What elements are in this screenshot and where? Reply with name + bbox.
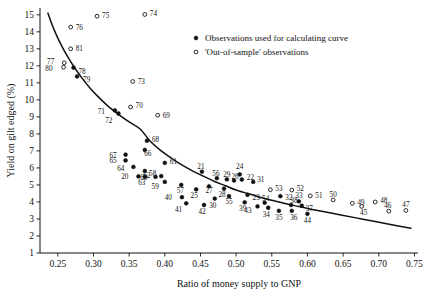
data-point-filled[interactable]: [117, 112, 121, 116]
data-point-label: 72: [105, 117, 113, 125]
data-point-label: 23: [253, 194, 261, 202]
data-point-label: 79: [83, 76, 91, 84]
data-point-label: 20: [121, 173, 129, 181]
data-point-label: 55: [225, 198, 233, 206]
data-point-filled[interactable]: [277, 209, 281, 213]
y-tick-label: 15: [25, 10, 35, 20]
data-point-label: 34: [263, 211, 271, 219]
data-point-label: 61: [170, 158, 178, 166]
x-tick-label: 0.65: [335, 259, 352, 269]
data-point-label: 63: [138, 179, 146, 187]
data-point-filled[interactable]: [290, 209, 294, 213]
data-point-label: 24: [236, 163, 244, 171]
y-tick-label: 11: [25, 78, 34, 88]
data-point-label: 64: [117, 165, 125, 173]
data-point-filled[interactable]: [266, 206, 270, 210]
data-point-label: 42: [198, 208, 206, 216]
data-point-filled[interactable]: [75, 75, 79, 79]
data-point-open[interactable]: [156, 113, 160, 117]
data-point-label: 31: [257, 176, 265, 184]
data-point-label: 51: [315, 192, 323, 200]
data-point-filled[interactable]: [132, 165, 136, 169]
data-point-filled[interactable]: [159, 174, 163, 178]
data-point-label: 41: [175, 206, 183, 214]
data-point-filled[interactable]: [243, 200, 247, 204]
data-point-label: 69: [163, 112, 171, 120]
data-point-open[interactable]: [129, 105, 133, 109]
data-point-filled[interactable]: [300, 204, 304, 208]
data-point-label: 66: [144, 150, 152, 158]
data-point-filled[interactable]: [124, 159, 128, 163]
data-point-filled[interactable]: [246, 193, 250, 197]
legend-label: 'Out-of-sample' observations: [205, 47, 309, 57]
y-tick-label: 13: [25, 44, 35, 54]
data-point-label: 54: [262, 195, 270, 203]
data-point-filled[interactable]: [278, 194, 282, 198]
y-tick-label: 3: [29, 214, 34, 224]
data-point-filled[interactable]: [256, 204, 260, 208]
data-point-label: 37: [306, 205, 314, 213]
chart-container: 1234567891011121314150.250.300.350.400.4…: [0, 0, 428, 306]
data-point-label: 47: [402, 201, 410, 209]
data-point-label: 74: [150, 10, 158, 18]
data-point-label: 57: [177, 187, 185, 195]
data-point-open[interactable]: [62, 61, 66, 65]
data-point-open[interactable]: [308, 194, 312, 198]
data-point-filled[interactable]: [184, 201, 188, 205]
y-tick-label: 9: [29, 112, 34, 122]
x-tick-label: 0.70: [370, 259, 387, 269]
data-point-label: 21: [197, 163, 205, 171]
data-point-filled[interactable]: [306, 212, 310, 216]
data-point-filled[interactable]: [163, 180, 167, 184]
data-point-open[interactable]: [143, 13, 147, 17]
data-point-label: 75: [102, 12, 110, 20]
x-axis-title: Ratio of money supply to GNP: [177, 278, 302, 289]
data-point-label: 48: [380, 197, 388, 205]
data-point-label: 81: [76, 45, 84, 53]
data-point-label: 27: [205, 187, 213, 195]
data-point-open[interactable]: [290, 188, 294, 192]
data-point-filled[interactable]: [251, 180, 255, 184]
y-tick-label: 7: [29, 146, 34, 156]
data-point-open[interactable]: [95, 14, 99, 18]
data-point-filled[interactable]: [240, 178, 244, 182]
y-tick-label: 5: [29, 180, 34, 190]
x-tick-label: 0.30: [85, 259, 102, 269]
data-point-label: 59: [152, 183, 160, 191]
data-point-filled[interactable]: [124, 153, 128, 157]
data-point-label: 44: [304, 217, 312, 225]
data-point-filled[interactable]: [213, 197, 217, 201]
data-point-label: 49: [357, 199, 365, 207]
data-point-label: 43: [244, 207, 252, 215]
legend-label: Observations used for calculating curve: [205, 33, 348, 43]
data-point-open[interactable]: [69, 25, 73, 29]
data-point-label: 40: [165, 194, 173, 202]
y-tick-label: 8: [29, 129, 34, 139]
data-point-label: 76: [76, 24, 84, 32]
data-point-filled[interactable]: [163, 161, 167, 165]
data-point-open[interactable]: [350, 201, 354, 205]
data-point-filled[interactable]: [202, 203, 206, 207]
data-point-label: 45: [360, 209, 368, 217]
data-point-filled[interactable]: [113, 109, 117, 113]
data-point-label: 26: [231, 173, 239, 181]
data-point-filled[interactable]: [145, 139, 149, 143]
data-point-open[interactable]: [62, 65, 66, 69]
x-tick-label: 0.55: [263, 259, 280, 269]
data-point-label: 30: [209, 202, 217, 210]
x-tick-label: 0.35: [121, 259, 138, 269]
data-point-filled[interactable]: [154, 175, 158, 179]
data-point-label: 68: [152, 136, 160, 144]
data-point-label: 71: [98, 108, 106, 116]
data-point-filled[interactable]: [180, 195, 184, 199]
data-point-open[interactable]: [373, 200, 377, 204]
x-tick-label: 0.45: [192, 259, 209, 269]
data-point-open[interactable]: [268, 188, 272, 192]
data-point-open[interactable]: [69, 47, 73, 51]
data-point-filled[interactable]: [194, 187, 198, 191]
data-point-label: 38: [290, 197, 298, 205]
data-point-label: 56: [212, 170, 220, 178]
data-point-open[interactable]: [131, 80, 135, 84]
data-point-label: 25: [191, 192, 199, 200]
data-point-filled[interactable]: [72, 66, 76, 70]
